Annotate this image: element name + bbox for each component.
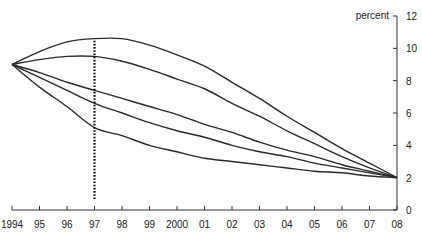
series-line — [12, 56, 397, 178]
x-tick-label: 2000 — [166, 219, 189, 230]
x-tick-label: 95 — [34, 219, 46, 230]
y-tick-label: 10 — [406, 43, 418, 54]
x-tick-label: 98 — [116, 219, 128, 230]
y-tick-label: 4 — [406, 140, 412, 151]
y-tick-label: 2 — [406, 173, 412, 184]
x-tick-label: 01 — [199, 219, 211, 230]
x-tick-label: 02 — [226, 219, 238, 230]
series-line — [12, 65, 397, 178]
x-tick-label: 97 — [89, 219, 101, 230]
series-line — [12, 65, 397, 178]
y-tick-label: 8 — [406, 76, 412, 87]
x-tick-label: 96 — [61, 219, 73, 230]
x-tick-label: 1994 — [1, 219, 24, 230]
x-tick-label: 07 — [364, 219, 376, 230]
x-tick-label: 99 — [144, 219, 156, 230]
y-tick-label: 12 — [406, 11, 418, 22]
y-tick-label: 0 — [406, 205, 412, 216]
y-tick-label: 6 — [406, 108, 412, 119]
axes: 1994959697989920000102030405060708024681… — [1, 11, 418, 230]
x-tick-label: 03 — [254, 219, 266, 230]
y-axis-label: percent — [356, 10, 390, 21]
x-tick-label: 04 — [281, 219, 293, 230]
x-tick-label: 06 — [336, 219, 348, 230]
chart-canvas: 1994959697989920000102030405060708024681… — [0, 0, 422, 243]
x-tick-label: 08 — [391, 219, 403, 230]
series-lines — [12, 38, 397, 178]
line-chart: 1994959697989920000102030405060708024681… — [0, 0, 422, 243]
series-line — [12, 65, 397, 178]
x-tick-label: 05 — [309, 219, 321, 230]
